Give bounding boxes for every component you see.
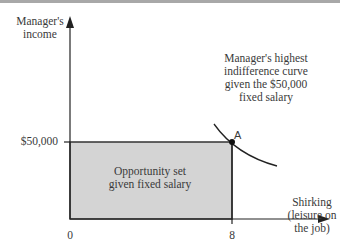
x-axis-label-line3: the job)	[284, 222, 340, 235]
y-axis-label: Manager's income	[10, 15, 70, 41]
region-label-line1: Opportunity set	[90, 165, 210, 178]
curve-annotation-line4: fixed salary	[196, 91, 336, 104]
x-origin-label: 0	[64, 229, 76, 242]
y-axis-label-line1: Manager's	[10, 15, 70, 28]
curve-annotation-line1: Manager's highest	[196, 52, 336, 65]
x-axis-label-line2: (leisure on	[284, 209, 340, 222]
curve-annotation: Manager's highest indifference curve giv…	[196, 52, 336, 104]
x-axis-label-line1: Shirking	[284, 196, 340, 209]
x-tick-label: 8	[226, 229, 238, 242]
region-label-line2: given fixed salary	[90, 178, 210, 191]
y-axis-label-line2: income	[10, 28, 70, 41]
point-a-label: A	[234, 129, 241, 142]
curve-annotation-line2: indifference curve	[196, 65, 336, 78]
y-tick-label: $50,000	[8, 135, 58, 148]
x-axis-label: Shirking (leisure on the job)	[284, 196, 340, 235]
opportunity-set-label: Opportunity set given fixed salary	[90, 165, 210, 191]
curve-annotation-line3: given the $50,000	[196, 78, 336, 91]
